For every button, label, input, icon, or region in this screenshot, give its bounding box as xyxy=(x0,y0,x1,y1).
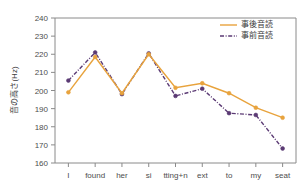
legend-label-2: 事前音読 xyxy=(241,30,273,40)
x-tick-label: ext xyxy=(197,171,208,180)
data-point xyxy=(66,90,70,94)
line-chart: 160170180190200210220230240Ifoundhersitt… xyxy=(0,0,303,194)
y-tick-label: 220 xyxy=(35,50,49,59)
legend-label-1: 事後音読 xyxy=(241,19,273,29)
x-tick-label: found xyxy=(85,171,105,180)
data-point xyxy=(200,81,204,85)
data-point xyxy=(254,113,258,117)
y-tick-label: 190 xyxy=(35,105,49,114)
data-point xyxy=(93,55,97,59)
data-point xyxy=(120,91,124,95)
y-tick-label: 180 xyxy=(35,123,49,132)
y-tick-label: 240 xyxy=(35,14,49,23)
y-tick-label: 160 xyxy=(35,159,49,168)
series-line-2 xyxy=(68,52,282,148)
x-tick-label: si xyxy=(146,171,152,180)
data-point xyxy=(227,91,231,95)
data-point xyxy=(254,106,258,110)
x-tick-label: I xyxy=(67,171,69,180)
data-point xyxy=(174,94,178,98)
x-tick-label: to xyxy=(226,171,233,180)
y-tick-label: 230 xyxy=(35,32,49,41)
y-tick-label: 200 xyxy=(35,87,49,96)
y-axis-title: 音の高さ(Hz) xyxy=(9,66,19,113)
data-point xyxy=(227,111,231,115)
chart-container: 160170180190200210220230240Ifoundhersitt… xyxy=(0,0,303,194)
data-point xyxy=(174,86,178,90)
x-tick-label: tting+n xyxy=(163,171,187,180)
x-tick-label: seat xyxy=(275,171,291,180)
data-point xyxy=(200,87,204,91)
data-point xyxy=(66,79,70,83)
y-tick-label: 170 xyxy=(35,141,49,150)
data-point xyxy=(147,52,151,56)
data-point xyxy=(281,147,285,151)
x-tick-label: her xyxy=(116,171,128,180)
x-tick-label: my xyxy=(250,171,261,180)
y-tick-label: 210 xyxy=(35,68,49,77)
data-point xyxy=(281,116,285,120)
data-point xyxy=(93,51,97,55)
